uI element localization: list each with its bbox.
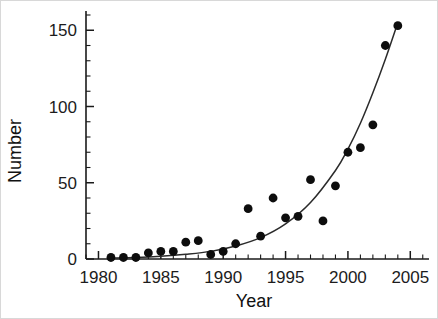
y-axis-ticks [86,15,94,259]
chart-figure: 050100150 198019851990199520002005 Numbe… [0,0,438,319]
y-tick-label: 150 [49,21,77,40]
data-point [131,253,140,262]
x-tick-label: 1990 [204,268,242,287]
data-point [194,236,203,245]
data-point [281,213,290,222]
data-point [231,239,240,248]
x-axis-title: Year [236,291,272,311]
data-point [356,143,365,152]
data-point [269,194,278,203]
data-point [144,249,153,258]
x-tick-label: 2005 [391,268,429,287]
fitted-curve [111,23,398,258]
data-point [181,238,190,247]
data-point [119,253,128,262]
data-point [368,120,377,129]
data-point [256,232,265,241]
data-point [344,148,353,157]
data-point [244,204,253,213]
data-point [331,181,340,190]
data-point [381,41,390,50]
data-point [319,216,328,225]
data-point [169,247,178,256]
y-axis-tick-labels: 050100150 [49,21,77,269]
y-tick-label: 0 [68,250,77,269]
data-point [294,212,303,221]
data-point-group [107,21,403,262]
data-point [206,250,215,259]
x-axis-tick-labels: 198019851990199520002005 [80,268,430,287]
scatter-plot-canvas: 050100150 198019851990199520002005 Numbe… [1,1,438,319]
y-tick-label: 50 [58,174,77,193]
data-point [107,253,116,262]
data-point [219,247,228,256]
data-point [156,247,165,256]
data-point [393,21,402,30]
x-tick-label: 1985 [142,268,180,287]
y-axis-title: Number [5,119,25,183]
x-tick-label: 1995 [267,268,305,287]
y-tick-label: 100 [49,98,77,117]
x-tick-label: 1980 [80,268,118,287]
x-tick-label: 2000 [329,268,367,287]
data-point [306,175,315,184]
